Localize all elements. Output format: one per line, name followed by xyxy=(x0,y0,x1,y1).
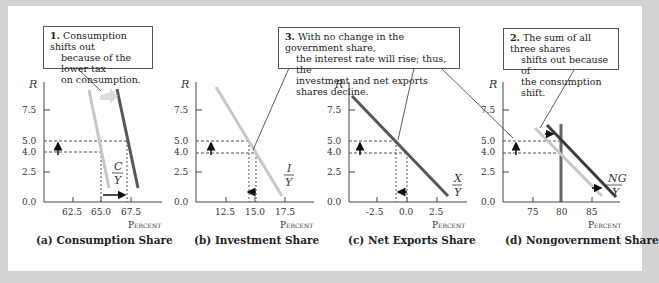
ngy-shifted-curve xyxy=(547,125,616,197)
svg-text:R: R xyxy=(488,78,497,91)
svg-text:C: C xyxy=(114,160,123,173)
svg-text:0.0: 0.0 xyxy=(481,197,496,207)
svg-text:Y: Y xyxy=(612,186,621,199)
svg-text:2.5: 2.5 xyxy=(22,167,37,177)
caption-consumption: (a) Consumption Share xyxy=(36,234,173,246)
svg-text:4.0: 4.0 xyxy=(174,147,189,157)
callout-leader xyxy=(253,68,289,150)
svg-text:5.0: 5.0 xyxy=(174,136,189,146)
svg-text:5.0: 5.0 xyxy=(327,136,342,146)
callout-consumption-shift: 1. Consumption shifts out because of the… xyxy=(43,26,153,69)
chart-consumption-share: R 7.5 5.0 4.0 2.5 0.0 62.5 65.0 67.5 Per… xyxy=(22,68,162,230)
svg-text:Percent: Percent xyxy=(280,220,313,230)
ngy-initial-curve xyxy=(535,128,602,196)
svg-text:0.0: 0.0 xyxy=(399,207,414,217)
svg-text:85: 85 xyxy=(586,207,598,217)
svg-text:65.0: 65.0 xyxy=(91,207,111,217)
svg-text:5.0: 5.0 xyxy=(22,136,37,146)
svg-text:NG: NG xyxy=(607,172,627,185)
svg-text:R: R xyxy=(28,78,37,91)
svg-text:7.5: 7.5 xyxy=(481,105,496,115)
svg-text:Y: Y xyxy=(114,174,123,187)
caption-net-exports: (c) Net Exports Share xyxy=(348,234,476,246)
svg-text:67.5: 67.5 xyxy=(121,207,141,217)
cy-initial-curve xyxy=(89,90,109,188)
svg-text:0.0: 0.0 xyxy=(22,197,37,207)
svg-text:62.5: 62.5 xyxy=(62,207,82,217)
svg-text:12.5: 12.5 xyxy=(215,207,235,217)
shift-right-arrow-icon xyxy=(100,88,118,104)
svg-text:75: 75 xyxy=(527,207,539,217)
svg-text:-2.5: -2.5 xyxy=(366,207,384,217)
svg-text:7.5: 7.5 xyxy=(327,105,342,115)
svg-text:Percent: Percent xyxy=(432,220,465,230)
svg-text:I: I xyxy=(286,162,292,175)
svg-text:2.5: 2.5 xyxy=(481,167,496,177)
svg-text:Percent: Percent xyxy=(588,220,621,230)
svg-text:2.5: 2.5 xyxy=(174,167,189,177)
svg-text:Percent: Percent xyxy=(128,220,161,230)
svg-text:15.0: 15.0 xyxy=(245,207,265,217)
svg-text:7.5: 7.5 xyxy=(174,105,189,115)
xy-curve xyxy=(352,96,448,196)
svg-text:X: X xyxy=(453,172,463,185)
caption-investment: (b) Investment Share xyxy=(194,234,319,246)
svg-text:17.5: 17.5 xyxy=(275,207,295,217)
svg-text:R: R xyxy=(180,78,189,91)
callout-sum-of-shares: 2. The sum of all three shares shifts ou… xyxy=(503,28,619,70)
iy-curve xyxy=(216,87,282,196)
svg-text:4.0: 4.0 xyxy=(22,147,37,157)
callout-government-share: 3. With no change in the government shar… xyxy=(278,27,460,69)
svg-text:Y: Y xyxy=(454,186,463,199)
svg-text:7.5: 7.5 xyxy=(22,105,37,115)
svg-text:Y: Y xyxy=(285,176,294,189)
svg-text:0.0: 0.0 xyxy=(327,197,342,207)
svg-text:4.0: 4.0 xyxy=(327,147,342,157)
svg-text:2.5: 2.5 xyxy=(429,207,444,217)
svg-text:80: 80 xyxy=(556,207,568,217)
svg-text:4.0: 4.0 xyxy=(481,147,496,157)
svg-text:0.0: 0.0 xyxy=(174,197,189,207)
caption-nongovernment: (d) Nongovernment Share xyxy=(505,234,659,246)
svg-text:5.0: 5.0 xyxy=(481,136,496,146)
svg-text:2.5: 2.5 xyxy=(327,167,342,177)
